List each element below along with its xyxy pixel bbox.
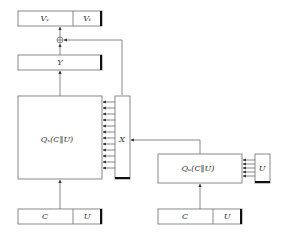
v-output-left-label: Vᵥ bbox=[41, 14, 50, 23]
right-input-u-label: U bbox=[224, 212, 231, 221]
v-output-box: Vᵥ Vₜ bbox=[18, 11, 102, 26]
qx-label: Qₓ(C‖U) bbox=[41, 135, 74, 144]
u-side-label: U bbox=[259, 164, 266, 173]
x-to-qx-arrows bbox=[103, 102, 115, 168]
v-output-right-label: Vₜ bbox=[83, 14, 91, 23]
x-box: X bbox=[115, 96, 130, 179]
qx-box: Qₓ(C‖U) bbox=[18, 96, 102, 179]
u-side-box: U bbox=[255, 154, 270, 183]
xor-node bbox=[57, 37, 63, 43]
y-box: Y bbox=[18, 55, 102, 70]
qu-box: Qᵤ(C‖U) bbox=[158, 154, 242, 183]
qu-label: Qᵤ(C‖U) bbox=[182, 164, 215, 173]
left-input-u-label: U bbox=[84, 212, 91, 221]
diagram-canvas: Vᵥ Vₜ Y Qₓ(C‖U) X bbox=[0, 0, 291, 239]
u-to-qu-arrows bbox=[243, 160, 255, 176]
right-input-box: C U bbox=[158, 209, 242, 224]
x-label: X bbox=[118, 135, 125, 144]
qu-to-x-arrow bbox=[131, 140, 200, 154]
left-input-c-label: C bbox=[42, 212, 48, 221]
left-input-box: C U bbox=[18, 209, 102, 224]
right-input-c-label: C bbox=[182, 212, 188, 221]
y-label: Y bbox=[57, 58, 63, 67]
